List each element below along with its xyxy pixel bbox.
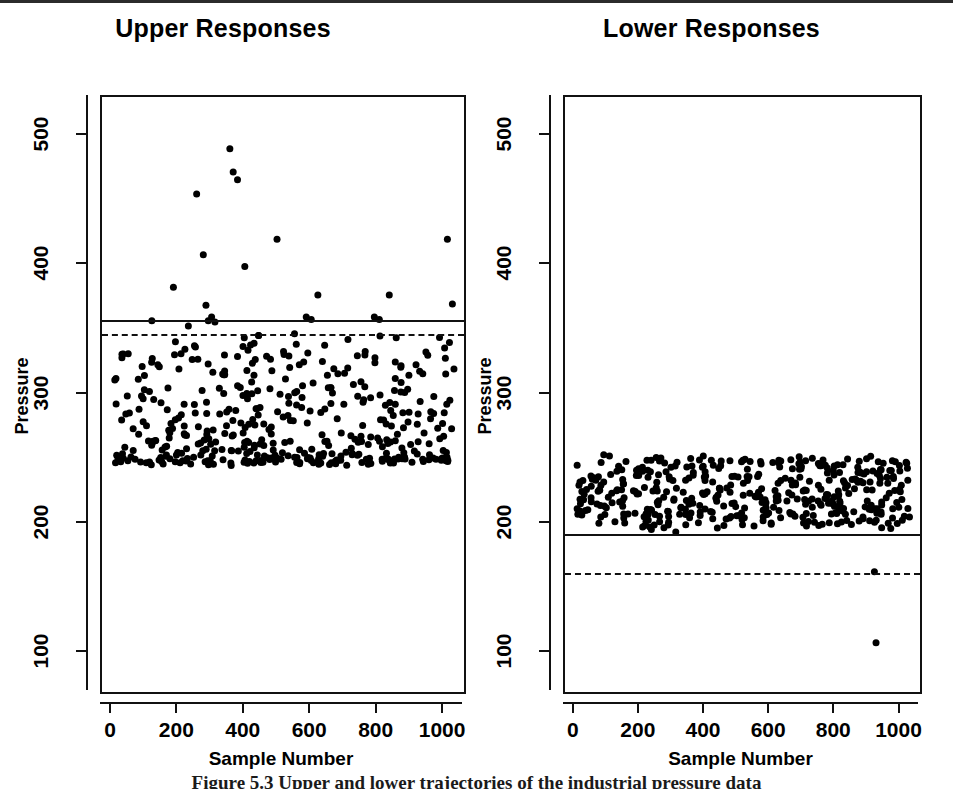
- y-tick-label-200: 200: [29, 493, 53, 551]
- y-tick-400: [76, 262, 87, 264]
- y-tick-400: [539, 262, 550, 264]
- y-tick-label-500: 500: [29, 105, 53, 163]
- y-tick-100: [76, 650, 87, 652]
- y-tick-label-100: 100: [492, 622, 516, 680]
- x-tick-600: [767, 702, 769, 713]
- x-axis-title-upper: Sample Number: [100, 748, 462, 770]
- x-axis-spine-upper: [100, 702, 462, 704]
- lower-control-limit-dashed-line: [565, 573, 920, 575]
- y-tick-label-200: 200: [492, 493, 516, 551]
- scatter-layer-upper: [102, 97, 464, 692]
- x-tick-800: [375, 702, 377, 713]
- x-tick-0: [572, 702, 574, 713]
- y-tick-300: [76, 392, 87, 394]
- x-tick-1000: [441, 702, 443, 713]
- x-tick-400: [702, 702, 704, 713]
- y-tick-label-300: 300: [29, 364, 53, 422]
- x-tick-200: [175, 702, 177, 713]
- y-tick-label-300: 300: [492, 364, 516, 422]
- plot-area-upper: [100, 95, 466, 694]
- panel-title-upper: Upper Responses: [0, 14, 461, 43]
- y-tick-label-500: 500: [492, 105, 516, 163]
- y-tick-label-400: 400: [492, 234, 516, 292]
- y-tick-200: [76, 521, 87, 523]
- figure-root: Upper Responses Pressure Sample Number 1…: [0, 0, 953, 789]
- y-tick-300: [539, 392, 550, 394]
- y-tick-label-100: 100: [29, 622, 53, 680]
- panel-upper-responses: Upper Responses Pressure Sample Number 1…: [0, 0, 476, 760]
- x-tick-200: [637, 702, 639, 713]
- scatter-layer-lower: [565, 97, 920, 692]
- x-tick-1000: [898, 702, 900, 713]
- lower-control-limit-solid-line: [565, 534, 920, 536]
- y-tick-500: [539, 133, 550, 135]
- y-tick-100: [539, 650, 550, 652]
- x-tick-label-1000: 1000: [859, 718, 939, 742]
- upper-control-limit-dashed-line: [102, 334, 464, 336]
- x-tick-0: [109, 702, 111, 713]
- x-axis-title-lower: Sample Number: [563, 748, 918, 770]
- plot-area-lower: [563, 95, 922, 694]
- panel-title-lower: Lower Responses: [470, 14, 953, 43]
- upper-control-limit-solid-line: [102, 320, 464, 322]
- panel-lower-responses: Lower Responses Pressure Sample Number 1…: [470, 0, 953, 760]
- x-tick-400: [242, 702, 244, 713]
- figure-caption: Figure 5.3 Upper and lower trajectories …: [0, 772, 953, 789]
- y-tick-200: [539, 521, 550, 523]
- y-tick-label-400: 400: [29, 234, 53, 292]
- x-axis-spine-lower: [563, 702, 918, 704]
- y-tick-500: [76, 133, 87, 135]
- x-tick-800: [832, 702, 834, 713]
- x-tick-600: [308, 702, 310, 713]
